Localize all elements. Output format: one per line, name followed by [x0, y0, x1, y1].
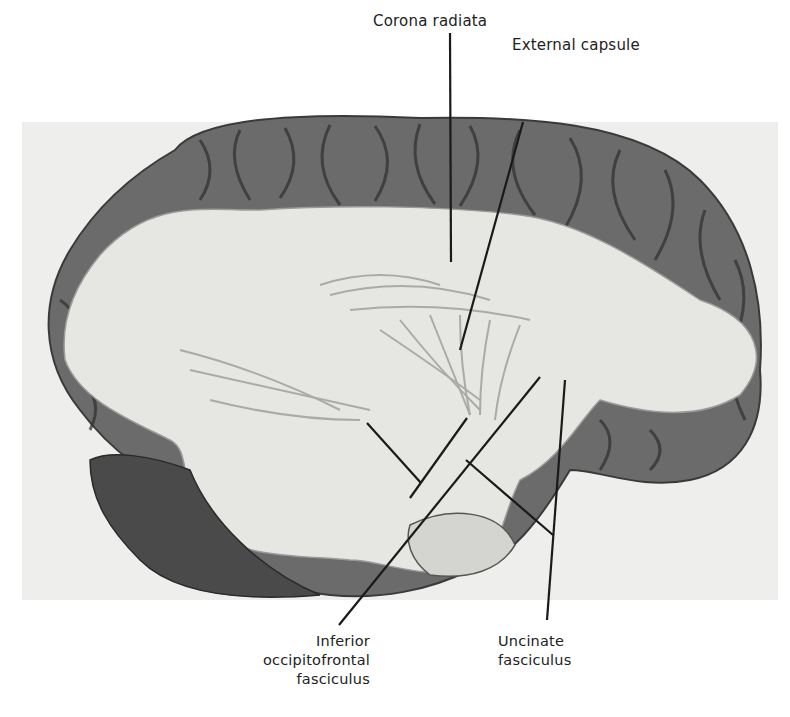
label-inferior-occipitofrontal: Inferior occipitofrontal fasciculus	[262, 632, 370, 689]
label-line: occipitofrontal	[262, 651, 370, 670]
label-external-capsule: External capsule	[512, 36, 640, 55]
label-line: Uncinate	[498, 632, 571, 651]
brain-illustration	[0, 0, 790, 717]
label-uncinate-fasciculus: Uncinate fasciculus	[498, 632, 571, 670]
label-line: fasciculus	[498, 651, 571, 670]
label-line: fasciculus	[262, 670, 370, 689]
label-corona-radiata: Corona radiata	[373, 12, 487, 31]
label-line: Inferior	[262, 632, 370, 651]
corona-radiata-leader	[450, 33, 451, 262]
